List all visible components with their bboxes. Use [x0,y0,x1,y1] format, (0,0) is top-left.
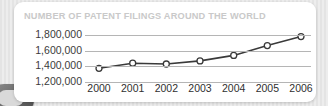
x-axis-tick-label: 2002 [155,82,178,94]
screenshot-root: NUMBER OF PATENT FILINGS AROUND THE WORL… [0,0,328,106]
chart-card: NUMBER OF PATENT FILINGS AROUND THE WORL… [14,2,316,102]
y-axis: 1,200,0001,400,0001,600,0001,800,000 [18,24,82,102]
data-point-marker [231,52,237,58]
y-axis-tick-label: 1,800,000 [20,29,82,40]
y-axis-tick-label: 1,400,000 [20,60,82,71]
x-axis-tick-label: 2004 [222,82,245,94]
gridline [85,35,311,36]
data-point-marker [264,43,270,49]
chart-title: NUMBER OF PATENT FILINGS AROUND THE WORL… [24,10,266,21]
chart-plot-area: 1,200,0001,400,0001,600,0001,800,000 200… [14,24,316,102]
x-axis-tick-label: 2001 [121,82,144,94]
y-axis-tick-label: 1,600,000 [20,45,82,56]
y-axis-tick-label: 1,200,000 [20,76,82,87]
x-axis-tick-label: 2005 [256,82,279,94]
data-point-marker [197,58,203,64]
x-axis-tick-label: 2006 [289,82,312,94]
x-axis-tick-label: 2003 [188,82,211,94]
gridline [85,51,311,52]
x-axis-tick-label: 2000 [87,82,110,94]
gridline [85,66,311,67]
x-axis: 2000200120022003200420052006 [85,82,311,102]
data-point-marker [130,60,136,66]
